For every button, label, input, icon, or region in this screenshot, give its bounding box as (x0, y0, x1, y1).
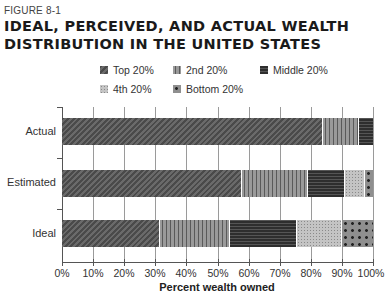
legend-swatch-2nd (173, 66, 181, 74)
segment-middle-20 (359, 118, 373, 145)
x-tick-label: 30% (144, 267, 165, 279)
x-tick (155, 259, 156, 266)
legend-label: 2nd 20% (186, 64, 227, 76)
bar-actual (62, 118, 373, 145)
x-tick (249, 259, 250, 266)
legend-item-middle: Middle 20% (260, 64, 328, 76)
x-tick-label: 0% (54, 267, 69, 279)
bar-ideal (62, 220, 373, 247)
segment-bottom-20 (365, 170, 373, 197)
chart-title: IDEAL, PERCEIVED, AND ACTUAL WEALTH DIST… (4, 17, 349, 53)
legend-label: Bottom 20% (186, 83, 243, 95)
legend-item-top: Top 20% (100, 64, 154, 76)
segment-2nd-20 (160, 220, 230, 247)
y-tick (57, 107, 62, 108)
x-tick-label: 80% (300, 267, 321, 279)
x-tick-label: 40% (175, 267, 196, 279)
legend-swatch-4th (100, 85, 108, 93)
bar-estimated (62, 170, 373, 197)
x-tick (186, 259, 187, 266)
x-tick-label: 90% (331, 267, 352, 279)
x-tick (280, 259, 281, 266)
legend-item-2nd: 2nd 20% (173, 64, 227, 76)
segment-middle-20 (308, 170, 345, 197)
x-tick-label: 10% (82, 267, 103, 279)
legend-item-4th: 4th 20% (100, 83, 152, 95)
legend-swatch-bottom (173, 85, 181, 93)
legend-swatch-middle (260, 66, 268, 74)
legend-label: Top 20% (113, 64, 154, 76)
x-tick (218, 259, 219, 266)
chart-title-line-2: DISTRIBUTION IN THE UNITED STATES (4, 35, 349, 53)
y-tick (57, 158, 62, 159)
y-tick (57, 209, 62, 210)
y-label-ideal: Ideal (32, 227, 56, 239)
y-label-actual: Actual (25, 125, 56, 137)
x-axis-title: Percent wealth owned (159, 281, 275, 293)
segment-2nd-20 (323, 118, 359, 145)
legend-label: 4th 20% (113, 83, 152, 95)
x-tick-label: 60% (238, 267, 259, 279)
legend-item-bottom: Bottom 20% (173, 83, 243, 95)
x-tick-label: 100% (358, 267, 385, 279)
x-tick (311, 259, 312, 266)
x-tick-label: 50% (207, 267, 228, 279)
chart-title-line-1: IDEAL, PERCEIVED, AND ACTUAL WEALTH (4, 17, 349, 35)
y-label-estimated: Estimated (7, 176, 56, 188)
segment-bottom-20 (342, 220, 373, 247)
segment-top-20 (62, 170, 242, 197)
gridline (373, 107, 374, 263)
legend-swatch-top (100, 66, 108, 74)
segment-middle-20 (230, 220, 297, 247)
legend-label: Middle 20% (273, 64, 328, 76)
x-tick (373, 259, 374, 266)
x-tick (93, 259, 94, 266)
figure-label: FIGURE 8-1 (4, 5, 61, 16)
segment-top-20 (62, 118, 323, 145)
segment-4th-20 (345, 170, 365, 197)
x-tick (62, 259, 63, 266)
segment-4th-20 (297, 220, 342, 247)
x-tick-label: 20% (113, 267, 134, 279)
segment-2nd-20 (242, 170, 307, 197)
segment-top-20 (62, 220, 160, 247)
x-tick (124, 259, 125, 266)
x-tick (342, 259, 343, 266)
x-tick-label: 70% (269, 267, 290, 279)
